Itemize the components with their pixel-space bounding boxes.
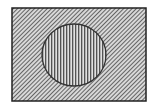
set-circle <box>42 24 106 86</box>
venn-diagram <box>0 0 158 110</box>
